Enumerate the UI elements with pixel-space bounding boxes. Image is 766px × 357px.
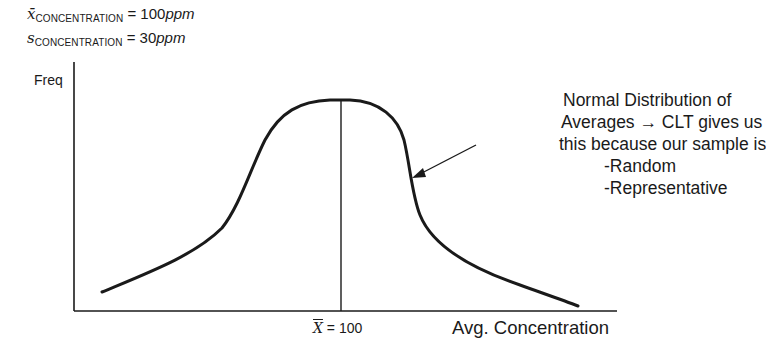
annotation-line: Averages → CLT gives us bbox=[561, 111, 766, 133]
sd-symbol: s bbox=[27, 29, 35, 47]
annotation-line: Normal Distribution of bbox=[563, 89, 766, 111]
annotation-line: this because our sample is bbox=[559, 133, 766, 155]
xbar-symbol: X bbox=[313, 320, 323, 336]
bell-curve bbox=[102, 100, 578, 306]
sd-value: 30 bbox=[140, 29, 157, 46]
sd-stat: sCONCENTRATION = 30ppm bbox=[27, 28, 195, 52]
y-axis-label: Freq bbox=[34, 72, 63, 88]
xbar-value: = 100 bbox=[323, 320, 362, 336]
arrow-head-icon bbox=[412, 168, 426, 178]
mean-value: 100 bbox=[140, 5, 165, 22]
x-axis-label: Avg. Concentration bbox=[452, 317, 609, 339]
annotation-arrow bbox=[418, 145, 476, 175]
clt-annotation: Normal Distribution of Averages → CLT gi… bbox=[563, 89, 766, 199]
sd-unit: ppm bbox=[156, 29, 185, 46]
mean-unit: ppm bbox=[165, 5, 194, 22]
mean-marker-label: X = 100 bbox=[313, 320, 362, 336]
sd-equals: = bbox=[122, 29, 139, 46]
sd-subscript: CONCENTRATION bbox=[35, 37, 123, 48]
mean-subscript: CONCENTRATION bbox=[35, 13, 123, 24]
mean-stat: x̄CONCENTRATION = 100ppm bbox=[27, 4, 195, 28]
mean-equals: = bbox=[123, 5, 140, 22]
annotation-bullet-random: -Random bbox=[563, 155, 766, 177]
annotation-bullet-representative: -Representative bbox=[563, 177, 766, 199]
summary-stats: x̄CONCENTRATION = 100ppm sCONCENTRATION … bbox=[27, 4, 195, 52]
